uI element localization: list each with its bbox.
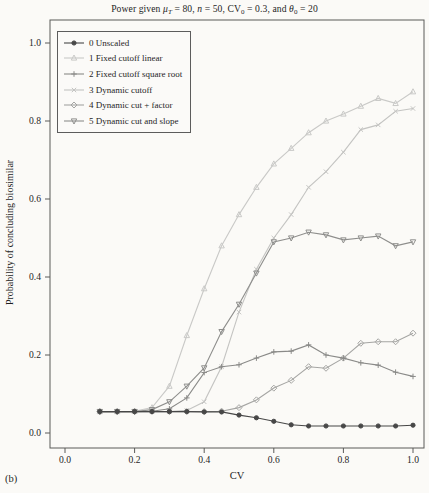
series-2-line — [100, 345, 413, 412]
series-2-marker — [306, 342, 312, 348]
legend-item-1: 1 Fixed cutoff linear — [63, 51, 182, 67]
panel-label: (b) — [5, 473, 17, 484]
legend-item-3: 3 Dynamic cutoff — [63, 82, 182, 98]
legend-x-icon — [63, 85, 85, 95]
series-4-line — [100, 333, 413, 411]
series-0-marker — [98, 409, 102, 413]
series-2-marker — [323, 352, 329, 358]
legend-triangle-down-icon — [63, 116, 85, 126]
series-2-marker — [375, 362, 381, 368]
series-3-marker — [324, 170, 328, 174]
y-tick-label: 0.0 — [29, 427, 41, 438]
y-tick-label: 0.6 — [29, 193, 41, 204]
x-tick-label: 0.2 — [129, 454, 141, 465]
series-0-marker — [359, 424, 363, 428]
series-3-marker — [341, 150, 345, 154]
legend: 0 Unscaled1 Fixed cutoff linear2 Fixed c… — [57, 31, 191, 133]
legend-item-label: 3 Dynamic cutoff — [89, 85, 152, 95]
x-tick-label: 1.0 — [407, 454, 419, 465]
series-2-marker — [271, 349, 277, 355]
series-0-marker — [272, 419, 276, 423]
series-0-marker — [324, 424, 328, 428]
series-0-marker — [185, 409, 189, 413]
series-3-marker — [289, 212, 293, 216]
series-2-marker — [393, 369, 399, 375]
x-tick-label: 0.6 — [268, 454, 280, 465]
legend-circle-filled-glyph — [72, 41, 76, 45]
series-2-marker — [236, 362, 242, 368]
legend-item-label: 2 Fixed cutoff square root — [89, 69, 182, 79]
series-3-line — [100, 109, 413, 412]
series-0-marker — [254, 416, 258, 420]
series-0-marker — [376, 424, 380, 428]
y-tick-label: 0.2 — [29, 349, 41, 360]
series-4-marker — [410, 330, 416, 336]
series-0-marker — [133, 409, 137, 413]
x-tick-label: 0.4 — [198, 454, 210, 465]
series-0-marker — [220, 410, 224, 414]
series-0-marker — [150, 409, 154, 413]
series-2-marker — [410, 374, 416, 380]
legend-item-label: 0 Unscaled — [89, 38, 129, 48]
y-tick-label: 0.8 — [29, 115, 41, 126]
series-5-line — [100, 232, 413, 411]
figure-page: Power given μT = 80, n = 50, CV0 = 0.3, … — [0, 0, 429, 493]
series-1-marker — [410, 89, 415, 94]
series-3-marker — [306, 185, 310, 189]
legend-item-label: 1 Fixed cutoff linear — [89, 53, 163, 63]
series-0-marker — [411, 423, 415, 427]
x-tick-label: 0.8 — [337, 454, 349, 465]
legend-plus-glyph — [71, 71, 77, 77]
x-tick-label: 0.0 — [59, 454, 71, 465]
series-0-marker — [289, 423, 293, 427]
series-2-marker — [358, 360, 364, 366]
series-0-marker — [237, 413, 241, 417]
legend-plus-icon — [63, 69, 85, 79]
series-2-marker — [254, 355, 260, 361]
x-axis-title: CV — [50, 470, 424, 481]
series-2-marker — [288, 348, 294, 354]
legend-diamond-icon — [63, 100, 85, 110]
y-tick-label: 0.4 — [29, 271, 41, 282]
series-3-marker — [202, 400, 206, 404]
legend-triangle-up-icon — [63, 53, 85, 63]
legend-item-5: 5 Dynamic cut and slope — [63, 113, 182, 129]
series-0-marker — [167, 409, 171, 413]
y-tick-label: 1.0 — [29, 37, 41, 48]
legend-item-0: 0 Unscaled — [63, 35, 182, 51]
legend-item-4: 4 Dynamic cut + factor — [63, 97, 182, 113]
series-0-marker — [341, 424, 345, 428]
y-axis-title: Probability of concluding biosimilar — [4, 159, 15, 304]
legend-item-label: 4 Dynamic cut + factor — [89, 100, 173, 110]
series-0-marker — [394, 424, 398, 428]
legend-circle-filled-icon — [63, 38, 85, 48]
series-0-marker — [202, 410, 206, 414]
legend-item-label: 5 Dynamic cut and slope — [89, 116, 178, 126]
series-0-marker — [115, 409, 119, 413]
legend-item-2: 2 Fixed cutoff square root — [63, 66, 182, 82]
series-0-marker — [307, 424, 311, 428]
